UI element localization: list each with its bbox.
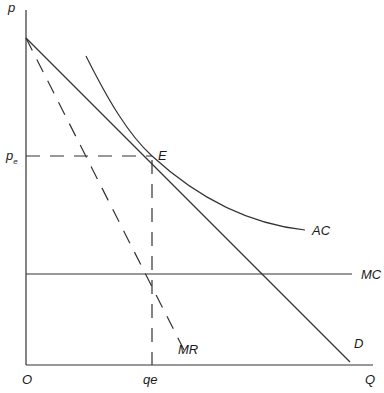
demand-curve [26,38,350,362]
demand-label: D [354,336,363,351]
marginal-revenue-curve [26,38,184,350]
average-cost-curve [86,56,305,230]
equilibrium-label: E [158,148,167,163]
diagram-canvas [0,0,384,393]
y-axis-label: p [8,0,15,15]
price-label: pe [6,148,18,166]
quantity-label: qe [143,372,157,387]
price-label-subscript: e [13,157,17,166]
marginal-cost-label: MC [361,267,381,282]
origin-label: O [22,372,32,387]
marginal-revenue-label: MR [178,342,198,357]
x-axis-label: Q [365,372,375,387]
average-cost-label: AC [312,223,330,238]
